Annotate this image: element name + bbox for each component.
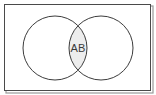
intersection-label: AB — [70, 42, 85, 54]
venn-diagram-canvas: AB — [0, 0, 156, 95]
venn-diagram-figure: AB — [0, 0, 156, 95]
